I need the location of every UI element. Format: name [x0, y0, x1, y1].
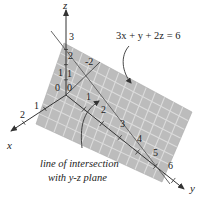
x-tick-1: 1: [34, 100, 39, 111]
z-tick-3: 3: [69, 31, 74, 42]
plane-equation: 3x + y + 2z = 6: [116, 30, 180, 41]
z-tick-2: 2: [68, 50, 73, 61]
y-tick-1: 1: [86, 91, 91, 102]
plane-diagram: z x y 3 2 1 0 0 -2 1 1 2 1 2 3 4 5 6 3x …: [0, 0, 203, 198]
x-tick-mark: [22, 121, 25, 125]
x-tick-0: 0: [55, 82, 60, 93]
annotation-line-2: with y-z plane: [48, 172, 107, 183]
z-tick-0: 0: [67, 82, 72, 93]
plane-tick-1: 1: [58, 67, 63, 78]
z-tick-1: 1: [67, 68, 72, 79]
extra-tick-neg2: -2: [85, 56, 93, 67]
annotation-line-1: line of intersection: [40, 158, 119, 169]
y-tick-3: 3: [120, 118, 125, 129]
y-tick-4: 4: [137, 133, 142, 144]
z-axis-label: z: [62, 0, 68, 11]
x-axis-label: x: [6, 139, 12, 151]
x-tick-2: 2: [20, 109, 25, 120]
y-tick-6: 6: [168, 160, 173, 171]
y-tick-5: 5: [153, 147, 158, 158]
y-axis-label: y: [189, 182, 195, 194]
y-tick-2: 2: [101, 104, 106, 115]
